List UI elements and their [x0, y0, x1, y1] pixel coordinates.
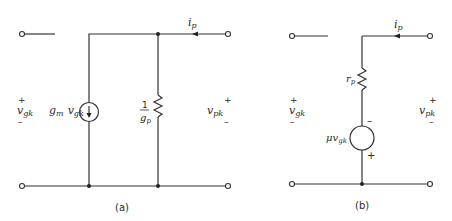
output-bottom-terminal-a: [226, 184, 231, 189]
svg-text:vgk: vgk: [289, 104, 305, 118]
caption-b: (b): [355, 200, 369, 211]
svg-text:μvgk: μvgk: [326, 132, 347, 145]
svg-text:gmvgk: gmvgk: [49, 104, 84, 118]
svg-text:ip: ip: [394, 18, 403, 32]
output-top-terminal-b: [428, 34, 433, 39]
input-bottom-terminal-a: [20, 184, 25, 189]
svg-text:ip: ip: [188, 16, 197, 30]
resistor-b: [358, 68, 366, 90]
output-bottom-terminal-b: [428, 182, 433, 187]
circuit-diagram: ip + vgk – gmvgk 1 gp + vpk – (a) ip rp …: [0, 0, 452, 221]
input-top-terminal-b: [290, 34, 295, 39]
svg-text:–: –: [429, 117, 434, 127]
svg-text:+: +: [429, 95, 437, 105]
svg-text:+: +: [224, 95, 232, 105]
circuit-a: ip + vgk – gmvgk 1 gp + vpk – (a): [17, 16, 232, 213]
output-top-terminal-a: [226, 32, 231, 37]
svg-text:–: –: [18, 117, 23, 127]
voltage-source-b: [350, 126, 374, 150]
svg-text:rp: rp: [346, 73, 356, 86]
svg-text:–: –: [224, 117, 229, 127]
circuit-b: ip rp μvgk – + + vgk – + vpk – (b): [289, 18, 437, 211]
svg-text:+: +: [367, 150, 375, 161]
svg-text:gp: gp: [140, 112, 151, 125]
caption-a: (a): [115, 202, 129, 213]
svg-text:–: –: [290, 117, 295, 127]
svg-text:vpk: vpk: [419, 104, 435, 118]
current-arrow-icon: [394, 34, 400, 39]
svg-text:vpk: vpk: [207, 104, 223, 118]
svg-text:1: 1: [142, 100, 148, 110]
input-top-terminal-a: [20, 32, 25, 37]
resistor-a: [154, 95, 162, 117]
svg-text:–: –: [367, 115, 372, 126]
svg-text:vgk: vgk: [17, 104, 33, 118]
current-arrow-icon: [192, 32, 198, 37]
input-bottom-terminal-b: [290, 182, 295, 187]
